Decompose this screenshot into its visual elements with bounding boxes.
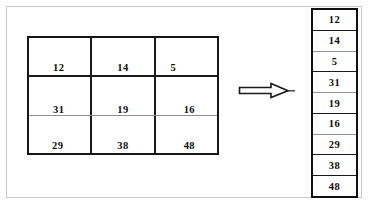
list-item-value: 16: [329, 118, 340, 129]
list-item: 38: [313, 155, 356, 176]
matrix-cell-value: 38: [117, 140, 128, 151]
matrix-cell-r1c2: 14: [90, 38, 153, 75]
list-item-value: 19: [329, 98, 340, 109]
list-item-value: 48: [329, 181, 340, 192]
matrix-cell-r3c2: 38: [90, 116, 153, 153]
list-item: 19: [313, 93, 356, 114]
list-item-value: 5: [332, 56, 338, 67]
list-item: 48: [313, 176, 356, 196]
matrix-cell-r2c1: 31: [29, 77, 90, 114]
matrix-row: 29 38 48: [29, 116, 217, 153]
matrix-cell-r2c3: 16: [154, 77, 217, 114]
list-item-value: 38: [329, 160, 340, 171]
matrix-cell-value: 14: [117, 62, 128, 73]
list-item: 5: [313, 52, 356, 73]
matrix-cell-r3c3: 48: [154, 116, 217, 153]
matrix-row: 12 14 5: [29, 38, 217, 75]
list-item-value: 31: [329, 77, 340, 88]
list-item: 16: [313, 114, 356, 135]
matrix-grid: 12 14 5 31 19 16 29 38: [27, 36, 219, 155]
result-list: 12 14 5 31 19 16 29 38 48: [311, 8, 358, 198]
matrix-cell-r1c1: 12: [29, 38, 90, 75]
list-item-value: 29: [329, 139, 340, 150]
matrix-cell-value: 29: [52, 140, 63, 151]
list-item: 31: [313, 72, 356, 93]
list-item-value: 14: [329, 35, 340, 46]
matrix-cell-value: 19: [117, 104, 128, 115]
arrow-right-outline-icon: [238, 80, 296, 102]
list-item-value: 12: [329, 14, 340, 25]
matrix-cell-value: 12: [53, 62, 64, 73]
matrix-cell-r1c3: 5: [154, 38, 217, 75]
matrix-cell-value: 48: [184, 140, 195, 151]
matrix-cell-value: 31: [53, 104, 64, 115]
matrix-cell-r3c1: 29: [29, 116, 90, 153]
list-item: 29: [313, 135, 356, 156]
matrix-row: 31 19 16: [29, 75, 217, 115]
list-item: 14: [313, 31, 356, 52]
matrix-cell-value: 5: [170, 62, 176, 73]
matrix-cell-r2c2: 19: [90, 77, 153, 114]
matrix-cell-value: 16: [184, 104, 195, 115]
diagram-canvas: 12 14 5 31 19 16 29 38: [0, 0, 370, 212]
list-item: 12: [313, 10, 356, 31]
